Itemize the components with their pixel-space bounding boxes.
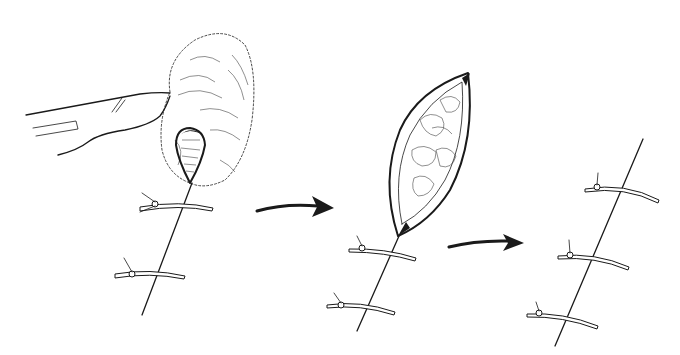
panel-3 xyxy=(527,139,659,346)
skin-fold-icon xyxy=(161,34,254,186)
panel-2 xyxy=(327,73,470,331)
suture-1 xyxy=(585,173,659,203)
open-wound-icon xyxy=(389,73,470,236)
suture-sequence-illustration xyxy=(0,0,680,355)
arrow-1-icon xyxy=(257,196,334,217)
suture-1 xyxy=(349,236,416,261)
scalpel-icon xyxy=(26,93,170,155)
suture-2 xyxy=(327,293,395,315)
incision-line xyxy=(142,183,192,315)
arrow-2-icon xyxy=(449,234,524,251)
suture-2 xyxy=(115,258,185,279)
suture-1 xyxy=(140,193,213,212)
closed-incision-line xyxy=(555,139,643,346)
panel-1 xyxy=(26,34,254,315)
illustration-canvas xyxy=(0,0,680,355)
suture-3 xyxy=(527,302,598,329)
